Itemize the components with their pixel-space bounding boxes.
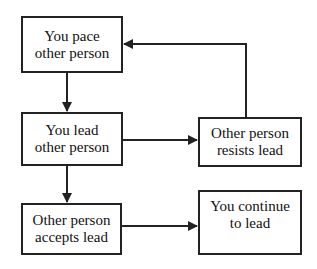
node-label: You pace other person [35, 28, 110, 62]
edge-resists-to-pace [124, 44, 246, 117]
node-label: Other person resists lead [211, 125, 289, 159]
node-you-lead: You lead other person [21, 112, 123, 166]
node-other-resists: Other person resists lead [198, 117, 302, 167]
node-you-pace: You pace other person [21, 16, 123, 73]
node-you-continue: You continue to lead [198, 190, 302, 255]
node-label: Other person accepts lead [33, 212, 111, 246]
node-other-accepts: Other person accepts lead [21, 203, 122, 255]
node-label: You lead other person [35, 122, 110, 156]
node-label: You continue to lead [210, 198, 290, 232]
